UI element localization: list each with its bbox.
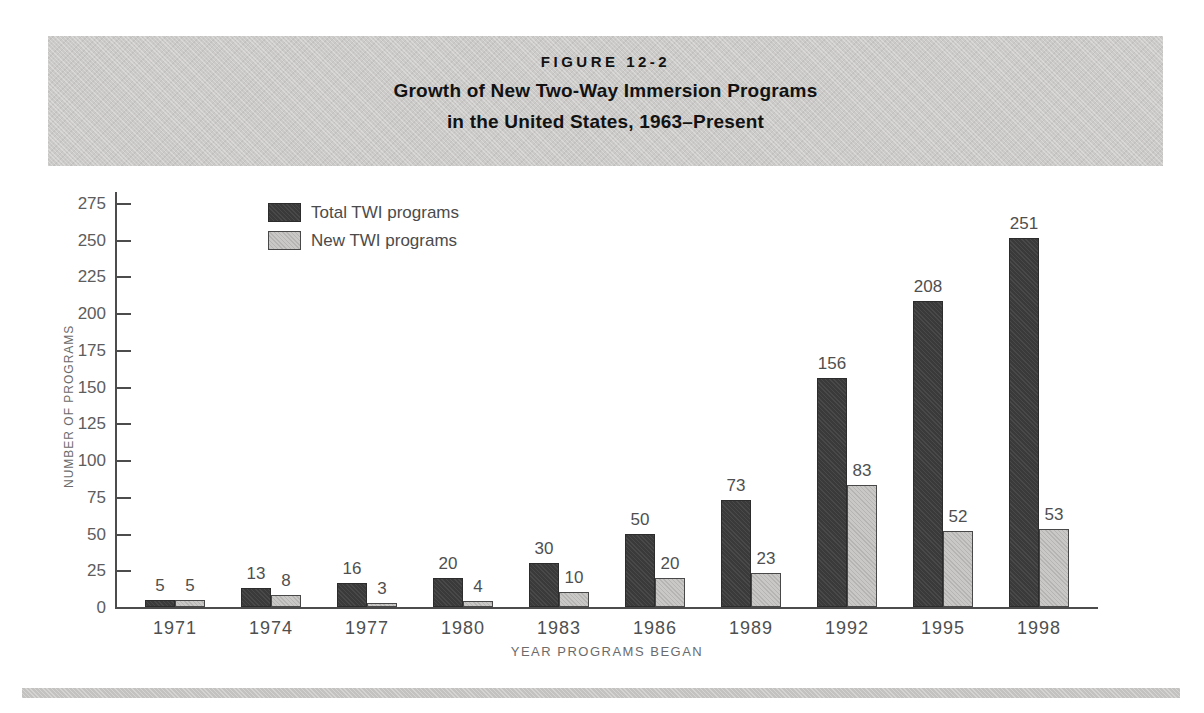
y-tick-label: 125 (60, 415, 106, 432)
y-tick-mark (117, 240, 131, 242)
bar-value-label: 52 (949, 507, 968, 527)
bar-value-label: 20 (439, 554, 458, 574)
y-tick-label: 100 (60, 452, 106, 469)
y-tick-label: 200 (60, 305, 106, 322)
y-tick-mark (117, 203, 131, 205)
new-twi-bar (559, 592, 589, 607)
y-tick-label: 275 (60, 195, 106, 212)
y-tick-mark (117, 423, 131, 425)
y-tick-mark (117, 460, 131, 462)
y-tick-mark (117, 570, 131, 572)
total-twi-bar (145, 600, 175, 607)
x-axis-line (115, 607, 1098, 609)
y-tick-mark (117, 350, 131, 352)
y-tick-label: 25 (60, 562, 106, 579)
y-axis-line (115, 192, 117, 607)
legend-row: Total TWI programs (268, 203, 459, 222)
y-tick-label: 150 (60, 379, 106, 396)
new-twi-bar (847, 485, 877, 607)
x-tick-label: 1989 (729, 618, 773, 638)
bar-value-label: 83 (853, 461, 872, 481)
total-twi-bar (241, 588, 271, 607)
x-tick-label: 1971 (153, 618, 197, 638)
y-tick-label: 75 (60, 489, 106, 506)
bar-value-label: 30 (535, 539, 554, 559)
y-tick-mark (117, 313, 131, 315)
x-tick-label: 1986 (633, 618, 677, 638)
y-tick-mark (117, 497, 131, 499)
legend-row: New TWI programs (268, 231, 459, 250)
y-tick-label: 0 (60, 599, 106, 616)
bar-value-label: 20 (661, 554, 680, 574)
bar-chart: NUMBER OF PROGRAMS YEAR PROGRAMS BEGAN T… (0, 0, 1204, 713)
total-twi-bar (529, 563, 559, 607)
x-tick-label: 1995 (921, 618, 965, 638)
bar-value-label: 156 (818, 354, 846, 374)
new-twi-bar (1039, 529, 1069, 607)
bar-value-label: 8 (281, 571, 290, 591)
new-twi-bar (367, 603, 397, 607)
x-axis-title: YEAR PROGRAMS BEGAN (511, 644, 703, 659)
bar-value-label: 73 (727, 476, 746, 496)
total-twi-bar (337, 583, 367, 607)
y-tick-label: 225 (60, 268, 106, 285)
total-twi-bar (625, 534, 655, 607)
bar-value-label: 50 (631, 510, 650, 530)
total-twi-bar (433, 578, 463, 607)
bar-value-label: 251 (1010, 214, 1038, 234)
y-tick-label: 175 (60, 342, 106, 359)
bar-value-label: 208 (914, 277, 942, 297)
new-twi-bar (751, 573, 781, 607)
new-twi-bar (271, 595, 301, 607)
y-tick-mark (117, 387, 131, 389)
total-twi-swatch (268, 203, 301, 222)
total-twi-bar (1009, 238, 1039, 607)
bar-value-label: 5 (155, 576, 164, 596)
total-twi-bar (913, 301, 943, 607)
bar-value-label: 5 (185, 576, 194, 596)
bar-value-label: 4 (473, 577, 482, 597)
chart-legend: Total TWI programsNew TWI programs (268, 203, 459, 259)
bar-value-label: 53 (1045, 505, 1064, 525)
bar-value-label: 13 (247, 564, 266, 584)
new-twi-bar (655, 578, 685, 607)
total-twi-bar (817, 378, 847, 607)
legend-label: Total TWI programs (311, 203, 459, 223)
y-tick-mark (117, 534, 131, 536)
y-tick-label: 50 (60, 526, 106, 543)
y-tick-mark (117, 276, 131, 278)
total-twi-bar (721, 500, 751, 607)
x-tick-label: 1983 (537, 618, 581, 638)
new-twi-bar (175, 600, 205, 607)
x-tick-label: 1974 (249, 618, 293, 638)
x-tick-label: 1980 (441, 618, 485, 638)
bar-value-label: 10 (565, 568, 584, 588)
x-tick-label: 1977 (345, 618, 389, 638)
bar-value-label: 23 (757, 549, 776, 569)
x-tick-label: 1998 (1017, 618, 1061, 638)
new-twi-swatch (268, 231, 301, 250)
new-twi-bar (463, 601, 493, 607)
bottom-rule (22, 688, 1180, 698)
bar-value-label: 16 (343, 559, 362, 579)
x-tick-label: 1992 (825, 618, 869, 638)
new-twi-bar (943, 531, 973, 607)
bar-value-label: 3 (377, 579, 386, 599)
y-tick-label: 250 (60, 232, 106, 249)
legend-label: New TWI programs (311, 231, 457, 251)
